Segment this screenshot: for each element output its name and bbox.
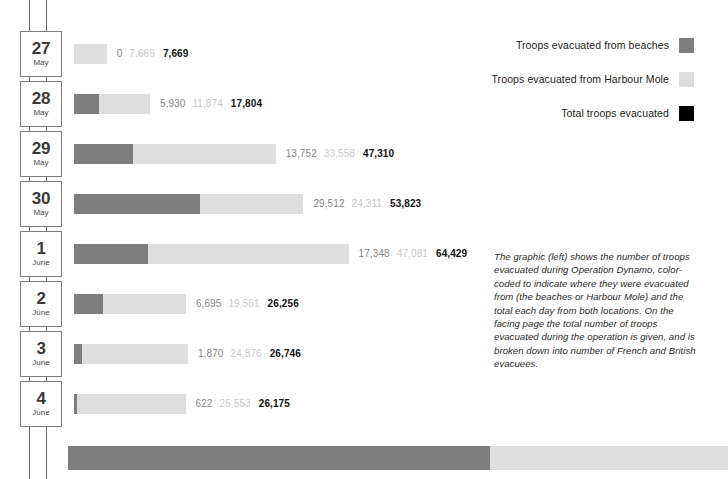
stacked-bar	[74, 94, 150, 114]
bar-segment-beaches	[74, 344, 82, 364]
bar-value-labels: 6,69519,56126,256	[196, 297, 299, 310]
value-label-harbour-mole: 7,669	[129, 48, 155, 59]
bar-segment-beaches	[74, 94, 99, 114]
date-day-number: 28	[32, 90, 50, 107]
value-label-total: 26,175	[259, 398, 290, 409]
stacked-bar	[74, 244, 349, 264]
date-month-label: June	[32, 308, 49, 318]
bar-value-labels: 07,6697,669	[117, 47, 189, 60]
value-label-beaches: 17,348	[359, 248, 390, 259]
bar-segment-harbour-mole	[148, 244, 349, 264]
summary-bar-beaches-segment	[68, 446, 490, 470]
stacked-bar	[74, 294, 186, 314]
bar-segment-beaches	[74, 144, 133, 164]
bar-segment-harbour-mole	[103, 294, 186, 314]
bar-segment-harbour-mole	[133, 144, 276, 164]
date-box: 27May	[20, 31, 62, 77]
value-label-harbour-mole: 19,561	[228, 298, 259, 309]
bar-segment-beaches	[74, 244, 148, 264]
date-day-number: 2	[36, 290, 45, 307]
date-month-label: June	[32, 358, 49, 368]
date-box: 4June	[20, 381, 62, 427]
bar-segment-harbour-mole	[99, 94, 150, 114]
value-label-total: 7,669	[163, 48, 189, 59]
stacked-bar	[74, 144, 276, 164]
date-box: 2June	[20, 281, 62, 327]
bar-segment-harbour-mole	[200, 194, 304, 214]
legend-item: Total troops evacuated	[470, 106, 694, 120]
date-day-number: 1	[36, 240, 45, 257]
stacked-bar	[74, 394, 186, 414]
date-box: 29May	[20, 131, 62, 177]
bar-segment-harbour-mole	[77, 394, 186, 414]
bar-value-labels: 1,87024,87626,746	[198, 347, 301, 360]
value-label-harbour-mole: 25,553	[220, 398, 251, 409]
value-label-harbour-mole: 11,874	[192, 98, 222, 109]
value-label-harbour-mole: 33,558	[324, 148, 355, 159]
date-day-number: 27	[32, 40, 50, 57]
bar-segment-harbour-mole	[82, 344, 188, 364]
legend: Troops evacuated from beachesTroops evac…	[470, 38, 694, 140]
legend-item-label: Troops evacuated from beaches	[516, 39, 669, 51]
value-label-beaches: 13,752	[286, 148, 317, 159]
stacked-bar	[74, 344, 188, 364]
legend-color-swatch	[679, 72, 694, 87]
legend-item-label: Total troops evacuated	[561, 107, 669, 119]
date-month-label: May	[33, 208, 48, 218]
date-month-label: May	[33, 58, 48, 68]
summary-total-bar	[68, 446, 728, 470]
value-label-harbour-mole: 24,311	[352, 198, 382, 209]
date-day-number: 29	[32, 140, 50, 157]
value-label-beaches: 622	[196, 398, 213, 409]
date-month-label: May	[33, 108, 48, 118]
date-day-number: 4	[36, 390, 45, 407]
stacked-bar	[74, 44, 107, 64]
legend-item-label: Troops evacuated from Harbour Mole	[491, 73, 669, 85]
stacked-bar	[74, 194, 303, 214]
value-label-beaches: 29,512	[313, 198, 344, 209]
bar-value-labels: 13,75233,55847,310	[286, 147, 395, 160]
value-label-beaches: 1,870	[198, 348, 224, 359]
date-day-number: 3	[36, 340, 45, 357]
caption-text: The graphic (left) shows the number of t…	[494, 250, 700, 371]
value-label-total: 26,256	[268, 298, 299, 309]
legend-item: Troops evacuated from beaches	[470, 38, 694, 52]
bar-value-labels: 62225,55326,175	[196, 397, 290, 410]
value-label-harbour-mole: 47,081	[397, 248, 428, 259]
value-label-beaches: 0	[117, 48, 123, 59]
bar-segment-beaches	[74, 194, 200, 214]
date-month-label: June	[32, 258, 49, 268]
date-box: 28May	[20, 81, 62, 127]
bar-value-labels: 5,93011,87417,804	[160, 97, 262, 110]
bar-segment-harbour-mole	[74, 44, 107, 64]
date-box: 1June	[20, 231, 62, 277]
summary-bar-mole-segment	[490, 446, 728, 470]
bar-value-labels: 29,51224,31153,823	[313, 197, 421, 210]
value-label-total: 53,823	[390, 198, 421, 209]
bar-segment-beaches	[74, 294, 103, 314]
value-label-harbour-mole: 24,876	[231, 348, 262, 359]
date-box: 30May	[20, 181, 62, 227]
date-box: 3June	[20, 331, 62, 377]
value-label-total: 26,746	[270, 348, 301, 359]
legend-item: Troops evacuated from Harbour Mole	[470, 72, 694, 86]
date-day-number: 30	[32, 190, 50, 207]
value-label-beaches: 6,695	[196, 298, 222, 309]
value-label-beaches: 5,930	[160, 98, 186, 109]
value-label-total: 64,429	[436, 248, 467, 259]
value-label-total: 17,804	[231, 98, 262, 109]
value-label-total: 47,310	[363, 148, 394, 159]
legend-color-swatch	[679, 106, 694, 121]
date-month-label: June	[32, 408, 49, 418]
legend-color-swatch	[679, 38, 694, 53]
bar-value-labels: 17,34847,08164,429	[359, 247, 468, 260]
date-month-label: May	[33, 158, 48, 168]
